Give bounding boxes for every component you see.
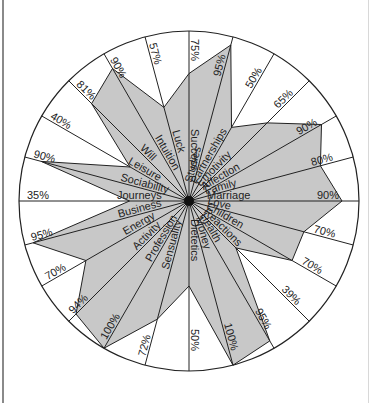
percentage-label: 70% bbox=[43, 260, 68, 282]
percentage-label: 35% bbox=[27, 189, 49, 201]
percentage-label: 75% bbox=[189, 39, 201, 61]
percentage-label: 65% bbox=[271, 86, 295, 110]
percentage-label: 39% bbox=[280, 283, 304, 307]
percentage-label: 57% bbox=[147, 41, 164, 66]
percentage-label: 90% bbox=[317, 189, 339, 201]
percentage-label: 72% bbox=[136, 333, 153, 358]
percentage-label: 70% bbox=[313, 223, 338, 240]
center-hub bbox=[184, 196, 194, 206]
percentage-label: 90% bbox=[33, 148, 58, 165]
percentage-label: 40% bbox=[49, 110, 74, 132]
radar-chart: SuccessStudiesPartnershipsEmotivityAffec… bbox=[0, 0, 374, 403]
spoke-label-dietetics: Dietetics bbox=[189, 219, 201, 262]
percentage-label: 50% bbox=[189, 329, 201, 351]
